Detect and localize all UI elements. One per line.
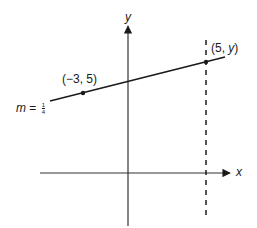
- x-axis-label: x: [236, 165, 242, 179]
- point-label-suffix: ): [234, 41, 238, 55]
- slope-var: m: [16, 101, 26, 115]
- slope-numerator: 1: [42, 102, 45, 108]
- point-label-prefix: (5,: [211, 41, 228, 55]
- y-axis-label: y: [125, 10, 131, 24]
- point-label-5-y: (5, y): [211, 41, 238, 55]
- point-neg3-5: [81, 91, 85, 95]
- slope-fraction: 14: [42, 102, 45, 115]
- slope-label: m = 14: [16, 101, 45, 115]
- point-5-y: [204, 60, 208, 64]
- slope-denominator: 4: [42, 108, 45, 115]
- point-label-neg3-5: (−3, 5): [62, 72, 97, 86]
- slope-equals: =: [26, 101, 40, 115]
